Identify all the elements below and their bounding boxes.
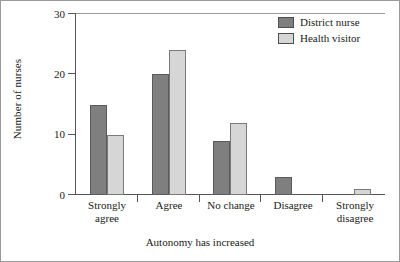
bar	[169, 50, 186, 195]
y-axis-title: Number of nurses	[7, 1, 27, 197]
bar	[107, 135, 124, 195]
y-axis-title-text: Number of nurses	[11, 59, 23, 139]
y-tick-label-1: 10	[54, 128, 65, 140]
y-tick-label-0: 0	[60, 189, 66, 201]
y-tick-label-3: 30	[54, 8, 65, 20]
legend-swatch-icon	[278, 33, 294, 44]
legend-item: Health visitor	[278, 32, 360, 44]
x-axis-title: Autonomy has increased	[1, 236, 399, 248]
chart-legend: District nurseHealth visitor	[278, 16, 360, 44]
legend-swatch-icon	[278, 17, 294, 28]
y-tick-3: 30	[68, 13, 75, 14]
bar	[213, 141, 230, 195]
y-tick-0: 0	[68, 194, 75, 195]
y-tick-1: 10	[68, 134, 75, 135]
chart-figure: Number of nurses 0 10 20 30 Stronglyagre…	[0, 0, 400, 262]
x-axis-tick-label: Disagree	[262, 199, 324, 225]
y-tick-2: 20	[68, 73, 75, 74]
bar	[354, 189, 371, 195]
legend-label: Health visitor	[300, 32, 360, 44]
x-axis-tick-label: Agree	[138, 199, 200, 225]
y-tick-label-2: 20	[54, 68, 65, 80]
bar	[275, 177, 292, 195]
bar-group	[76, 13, 138, 195]
x-axis-tick-labels: StronglyagreeAgreeNo changeDisagreeStron…	[76, 199, 386, 225]
bar-group	[200, 13, 262, 195]
bar-group	[138, 13, 200, 195]
bar	[152, 74, 169, 195]
legend-label: District nurse	[300, 16, 360, 28]
bar	[90, 105, 107, 196]
x-axis-tick-label: Stronglydisagree	[324, 199, 386, 225]
x-axis-tick-label: No change	[200, 199, 262, 225]
legend-item: District nurse	[278, 16, 360, 28]
bar	[230, 123, 247, 195]
x-axis-tick-label: Stronglyagree	[76, 199, 138, 225]
